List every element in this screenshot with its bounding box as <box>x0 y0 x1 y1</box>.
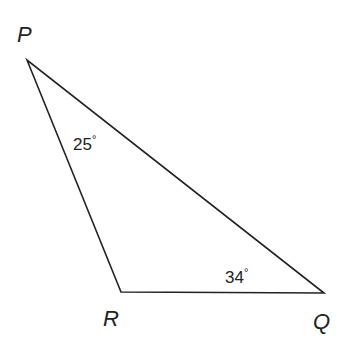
triangle-pqr <box>27 60 324 293</box>
vertex-label-p: P <box>17 22 32 48</box>
angle-q-label: 34° <box>225 266 248 288</box>
triangle-figure <box>0 0 355 350</box>
vertex-label-r: R <box>103 306 119 332</box>
angle-p-label: 25° <box>73 133 96 155</box>
vertex-label-q: Q <box>313 309 330 335</box>
